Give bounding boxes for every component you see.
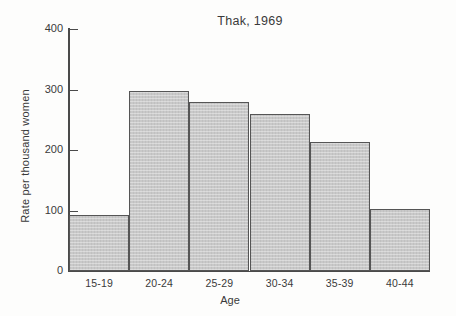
x-tick-label-15-19: 15-19 — [69, 277, 129, 289]
x-tick-label-25-29: 25-29 — [189, 277, 249, 289]
y-axis-label: Rate per thousand women — [19, 61, 31, 251]
y-tick-label: 100 — [45, 204, 63, 216]
bar-20-24 — [129, 91, 189, 271]
x-axis-label: Age — [160, 294, 300, 306]
y-tick-label: 200 — [45, 143, 63, 155]
x-tick-label-35-39: 35-39 — [310, 277, 370, 289]
bar-15-19 — [69, 215, 129, 271]
bar-30-34 — [250, 114, 310, 271]
x-tick-label-30-34: 30-34 — [250, 277, 310, 289]
bar-40-44 — [370, 209, 430, 271]
chart-title: Thak, 1969 — [120, 14, 380, 28]
plot-area — [69, 29, 430, 271]
bar-35-39 — [310, 142, 370, 271]
bar-chart-figure: Thak, 1969 Rate per thousand women 01002… — [0, 0, 456, 316]
y-tick-label: 0 — [57, 264, 63, 276]
y-tick-label: 300 — [45, 83, 63, 95]
x-tick-label-40-44: 40-44 — [370, 277, 430, 289]
x-tick-label-20-24: 20-24 — [129, 277, 189, 289]
bar-25-29 — [189, 102, 249, 271]
y-tick-label: 400 — [45, 22, 63, 34]
